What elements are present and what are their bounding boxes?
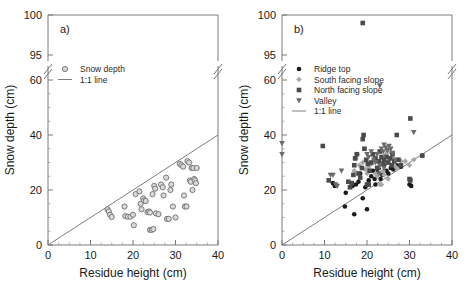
svg-text:20: 20	[30, 184, 42, 196]
svg-text:0: 0	[270, 239, 276, 251]
panel-a: 010203040020406095100a)Residue height (c…	[0, 0, 233, 289]
svg-text:95: 95	[264, 49, 276, 61]
svg-text:10: 10	[318, 249, 330, 261]
svg-text:South facing slope: South facing slope	[314, 75, 384, 85]
svg-text:Residue height (cm): Residue height (cm)	[79, 266, 186, 280]
svg-text:Snow depth: Snow depth	[80, 64, 125, 74]
svg-text:40: 40	[30, 129, 42, 141]
svg-text:10: 10	[84, 249, 96, 261]
svg-text:1:1 line: 1:1 line	[80, 75, 108, 85]
svg-text:Snow depth (cm): Snow depth (cm)	[237, 85, 251, 176]
svg-text:30: 30	[169, 249, 181, 261]
svg-text:20: 20	[361, 249, 373, 261]
svg-text:0: 0	[279, 249, 285, 261]
svg-text:100: 100	[24, 9, 42, 21]
panel-a-plot: 010203040020406095100a)Residue height (c…	[0, 0, 233, 289]
svg-text:b): b)	[294, 23, 304, 35]
svg-text:North facing slope: North facing slope	[314, 85, 383, 95]
svg-text:20: 20	[127, 249, 139, 261]
svg-text:Snow depth (cm): Snow depth (cm)	[3, 85, 17, 176]
svg-text:20: 20	[264, 184, 276, 196]
svg-text:0: 0	[45, 249, 51, 261]
svg-text:40: 40	[446, 249, 458, 261]
svg-text:30: 30	[403, 249, 415, 261]
svg-text:40: 40	[212, 249, 224, 261]
svg-text:0: 0	[36, 239, 42, 251]
svg-text:Residue height (cm): Residue height (cm)	[313, 266, 420, 280]
svg-text:95: 95	[30, 49, 42, 61]
svg-text:60: 60	[264, 74, 276, 86]
svg-text:1:1 line: 1:1 line	[314, 106, 342, 116]
figure-snow-depth-vs-residue-height: 010203040020406095100a)Residue height (c…	[0, 0, 467, 289]
panel-b: 010203040020406095100b)Residue height (c…	[234, 0, 467, 289]
svg-text:60: 60	[30, 74, 42, 86]
svg-text:Ridge top: Ridge top	[314, 64, 351, 74]
svg-text:Valley: Valley	[314, 96, 337, 106]
svg-text:100: 100	[258, 9, 276, 21]
svg-text:a): a)	[60, 23, 70, 35]
svg-text:40: 40	[264, 129, 276, 141]
panel-b-plot: 010203040020406095100b)Residue height (c…	[234, 0, 467, 289]
